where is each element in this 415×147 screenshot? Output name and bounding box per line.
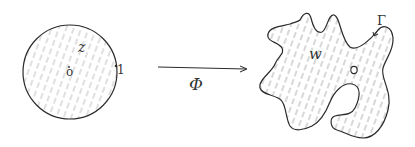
domain-boundary-label: Γ [377, 14, 386, 27]
conformal-map-diagram: z o 1 Φ w Γ [0, 0, 415, 147]
domain-variable-label: w [309, 47, 322, 62]
map-arrow [158, 66, 247, 72]
map-label: Φ [189, 76, 203, 93]
boundary-point-label: 1 [117, 64, 125, 76]
disk-variable-label: z [78, 40, 85, 54]
target-domain [260, 13, 393, 138]
diagram-svg [0, 0, 415, 147]
arrow-shaft [158, 67, 246, 69]
disk-center-label: o [66, 66, 73, 78]
